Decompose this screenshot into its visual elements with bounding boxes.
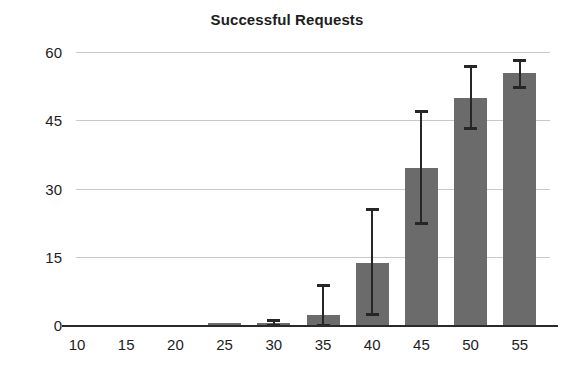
ytick-label-15: 15 [16, 250, 62, 265]
errorbar-cap-lower-50 [464, 127, 477, 130]
errorbar-cap-upper-30 [267, 319, 280, 322]
ytick-label-0: 0 [16, 318, 62, 333]
xtick-label-25: 25 [201, 337, 249, 352]
xtick-label-10: 10 [53, 337, 101, 352]
plot-area: 60 45 30 15 0 10152025303540455055 [0, 0, 574, 373]
errorbar-cap-lower-45 [415, 222, 428, 225]
errorbar-line-50 [470, 66, 472, 129]
errorbar-cap-lower-40 [366, 313, 379, 316]
gridline-60 [76, 52, 550, 53]
xtick-label-30: 30 [250, 337, 298, 352]
xtick-label-35: 35 [299, 337, 347, 352]
errorbar-line-40 [371, 209, 373, 315]
errorbar-cap-lower-55 [513, 86, 526, 89]
errorbar-cap-upper-35 [317, 284, 330, 287]
errorbar-line-55 [519, 60, 521, 87]
bar-55 [503, 73, 536, 325]
errorbar-cap-upper-50 [464, 65, 477, 68]
xtick-label-20: 20 [151, 337, 199, 352]
chart-container: Successful Requests 60 45 30 15 0 101520… [0, 0, 574, 373]
xtick-label-15: 15 [102, 337, 150, 352]
ytick-label-60: 60 [16, 45, 62, 60]
xtick-label-50: 50 [447, 337, 495, 352]
xtick-label-40: 40 [348, 337, 396, 352]
bar-50 [454, 98, 487, 325]
xtick-label-55: 55 [496, 337, 544, 352]
xtick-label-45: 45 [397, 337, 445, 352]
ytick-label-30: 30 [16, 182, 62, 197]
x-axis-line [62, 325, 558, 327]
errorbar-cap-upper-45 [415, 110, 428, 113]
errorbar-cap-upper-55 [513, 59, 526, 62]
ytick-label-45: 45 [16, 113, 62, 128]
errorbar-line-35 [322, 285, 324, 325]
errorbar-line-45 [420, 111, 422, 222]
errorbar-cap-upper-40 [366, 208, 379, 211]
